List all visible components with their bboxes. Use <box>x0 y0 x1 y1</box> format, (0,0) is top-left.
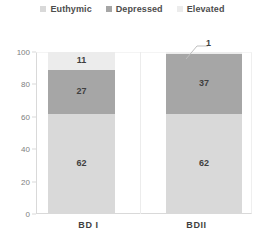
bar-segment-bd2-euthymic[interactable]: 62 <box>166 114 242 214</box>
bar-value-bd2-elevated: 1 <box>206 38 211 48</box>
bar-segment-bd2-elevated[interactable] <box>166 52 242 54</box>
y-tick-label-80: 80 <box>21 80 30 89</box>
x-axis-label-bd2: BDII <box>141 220 252 230</box>
legend-label-euthymic: Euthymic <box>50 4 91 14</box>
y-tick-label-20: 20 <box>21 177 30 186</box>
bar-value-bd1-elevated: 11 <box>77 56 87 65</box>
category-divider <box>140 52 141 214</box>
bar-value-bd2-depressed: 37 <box>199 79 209 88</box>
bar-segment-bd2-depressed[interactable]: 37 <box>166 54 242 114</box>
legend-item-euthymic[interactable]: Euthymic <box>40 4 91 14</box>
y-tick-label-40: 40 <box>21 145 30 154</box>
y-axis: 100 80 60 40 20 0 <box>0 52 36 214</box>
x-axis: BD I BDII <box>37 220 252 238</box>
bar-value-bd1-depressed: 27 <box>76 87 86 96</box>
chart-legend: Euthymic Depressed Elevated <box>0 4 265 14</box>
x-axis-label-bd1: BD I <box>37 220 140 230</box>
bar-segment-bd1-euthymic[interactable]: 62 <box>48 114 115 214</box>
bar-value-bd2-euthymic: 62 <box>199 159 209 168</box>
plot-area: 62 27 11 62 37 <box>37 52 252 214</box>
legend-swatch-elevated <box>177 6 183 12</box>
legend-item-elevated[interactable]: Elevated <box>177 4 225 14</box>
legend-label-elevated: Elevated <box>187 4 225 14</box>
bar-value-bd1-euthymic: 62 <box>76 159 86 168</box>
legend-swatch-depressed <box>106 6 112 12</box>
legend-item-depressed[interactable]: Depressed <box>106 4 163 14</box>
bar-bd2[interactable]: 62 37 <box>166 52 242 214</box>
bar-segment-bd1-elevated[interactable]: 11 <box>48 52 115 70</box>
legend-label-depressed: Depressed <box>116 4 163 14</box>
legend-swatch-euthymic <box>40 6 46 12</box>
bar-segment-bd1-depressed[interactable]: 27 <box>48 70 115 114</box>
y-tick-label-100: 100 <box>17 48 30 57</box>
y-tick-label-60: 60 <box>21 112 30 121</box>
bar-bd1[interactable]: 62 27 11 <box>48 52 115 214</box>
y-tick-label-0: 0 <box>26 210 30 219</box>
stacked-bar-chart: Euthymic Depressed Elevated 100 80 60 40… <box>0 0 265 241</box>
